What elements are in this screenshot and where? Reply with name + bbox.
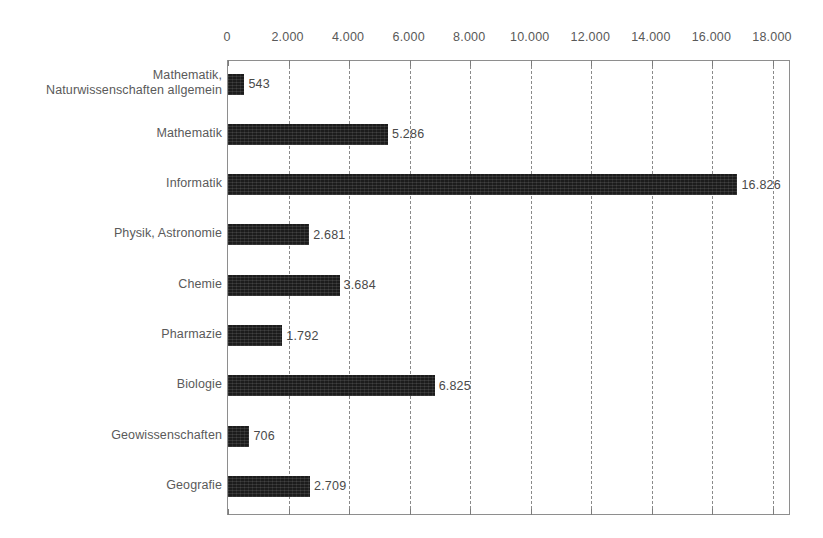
bar bbox=[228, 275, 340, 296]
category-label: Biologie bbox=[0, 377, 222, 392]
bar bbox=[228, 325, 282, 346]
tickmark-bottom bbox=[289, 509, 290, 515]
bar bbox=[228, 476, 310, 497]
category-label: Mathematik bbox=[0, 126, 222, 141]
category-label-row: Mathematik, Naturwissenschaften allgemei… bbox=[0, 73, 222, 94]
plot-area: 5435.28616.8262.6813.6841.7926.8257062.7… bbox=[227, 60, 790, 515]
tickmark-top bbox=[410, 60, 411, 66]
bar-value-label: 16.826 bbox=[737, 178, 780, 192]
x-tick-label: 16.000 bbox=[692, 30, 731, 44]
x-tick-label: 2.000 bbox=[271, 30, 303, 44]
tickmark-top bbox=[228, 60, 229, 66]
category-label: Geografie bbox=[0, 478, 222, 493]
category-label-row: Physik, Astronomie bbox=[0, 223, 222, 244]
tickmark-top bbox=[591, 60, 592, 66]
category-label-row: Mathematik bbox=[0, 123, 222, 144]
bar-value-label: 2.709 bbox=[310, 479, 346, 493]
bar-row: 543 bbox=[228, 74, 789, 95]
x-tick-label: 4.000 bbox=[332, 30, 364, 44]
category-label-row: Geografie bbox=[0, 475, 222, 496]
category-label: Physik, Astronomie bbox=[0, 226, 222, 241]
category-label-row: Biologie bbox=[0, 374, 222, 395]
bar-row: 2.681 bbox=[228, 224, 789, 245]
tickmark-bottom bbox=[410, 509, 411, 515]
category-label-row: Informatik bbox=[0, 173, 222, 194]
x-tick-label: 0 bbox=[223, 30, 230, 44]
tickmark-bottom bbox=[773, 509, 774, 515]
tickmark-top bbox=[531, 60, 532, 66]
category-label: Mathematik, Naturwissenschaften allgemei… bbox=[0, 68, 222, 98]
tickmark-top bbox=[349, 60, 350, 66]
tickmark-top bbox=[289, 60, 290, 66]
tickmark-bottom bbox=[591, 509, 592, 515]
tickmark-bottom bbox=[531, 509, 532, 515]
bar bbox=[228, 74, 244, 95]
bar-value-label: 706 bbox=[249, 429, 274, 443]
tickmark-bottom bbox=[470, 509, 471, 515]
bar bbox=[228, 375, 435, 396]
bar-row: 3.684 bbox=[228, 275, 789, 296]
tickmark-top bbox=[712, 60, 713, 66]
x-tick-label: 14.000 bbox=[631, 30, 670, 44]
tickmark-bottom bbox=[652, 509, 653, 515]
bar-row: 5.286 bbox=[228, 124, 789, 145]
tickmark-top bbox=[470, 60, 471, 66]
bar bbox=[228, 426, 249, 447]
bar-row: 2.709 bbox=[228, 476, 789, 497]
bar-value-label: 6.825 bbox=[435, 379, 471, 393]
x-tick-label: 6.000 bbox=[393, 30, 425, 44]
bar-value-label: 3.684 bbox=[340, 278, 376, 292]
bar-value-label: 2.681 bbox=[309, 228, 345, 242]
tickmark-bottom bbox=[228, 509, 229, 515]
category-label: Informatik bbox=[0, 176, 222, 191]
bar-value-label: 1.792 bbox=[282, 329, 318, 343]
category-label: Geowissenschaften bbox=[0, 428, 222, 443]
tickmark-top bbox=[773, 60, 774, 66]
x-tick-label: 12.000 bbox=[571, 30, 610, 44]
bar-row: 16.826 bbox=[228, 174, 789, 195]
bar-chart: 02.0004.0006.0008.00010.00012.00014.0001… bbox=[0, 0, 823, 538]
x-tick-label: 8.000 bbox=[453, 30, 485, 44]
category-axis-labels: Mathematik, Naturwissenschaften allgemei… bbox=[0, 60, 222, 515]
bar-row: 1.792 bbox=[228, 325, 789, 346]
bar-value-label: 543 bbox=[244, 77, 269, 91]
bar bbox=[228, 174, 737, 195]
bar bbox=[228, 224, 309, 245]
x-tick-label: 10.000 bbox=[510, 30, 549, 44]
category-label: Chemie bbox=[0, 277, 222, 292]
category-label-row: Chemie bbox=[0, 274, 222, 295]
category-label-row: Pharmazie bbox=[0, 324, 222, 345]
bar-row: 6.825 bbox=[228, 375, 789, 396]
category-label: Pharmazie bbox=[0, 327, 222, 342]
bar-row: 706 bbox=[228, 426, 789, 447]
x-tick-label: 18.000 bbox=[752, 30, 791, 44]
tickmark-bottom bbox=[712, 509, 713, 515]
category-label-row: Geowissenschaften bbox=[0, 425, 222, 446]
tickmark-bottom bbox=[349, 509, 350, 515]
bar bbox=[228, 124, 388, 145]
bar-value-label: 5.286 bbox=[388, 127, 424, 141]
tickmark-top bbox=[652, 60, 653, 66]
